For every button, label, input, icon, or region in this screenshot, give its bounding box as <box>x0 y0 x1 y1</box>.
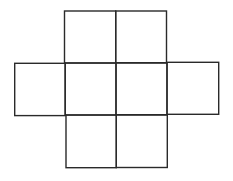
cross-net-diagram <box>0 0 233 181</box>
